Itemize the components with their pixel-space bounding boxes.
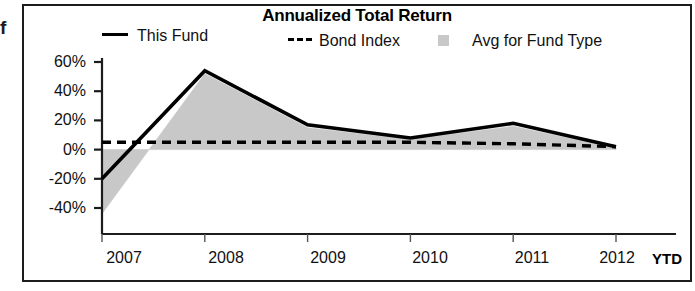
- x-tick-label: 2009: [298, 250, 358, 266]
- x-tick-label: 2008: [196, 250, 256, 266]
- y-tick-label: 60%: [30, 54, 86, 70]
- y-tick-label: 20%: [30, 112, 86, 128]
- x-tick-label: 2010: [400, 250, 460, 266]
- x-tick-label: 2012: [587, 250, 647, 266]
- x-tick-label: 2007: [94, 250, 154, 266]
- y-tick-label: -20%: [30, 171, 86, 187]
- clipped-edge-text: f: [0, 18, 18, 37]
- y-tick-label: 40%: [30, 83, 86, 99]
- chart-plot-svg: [24, 6, 690, 280]
- y-tick-label: -40%: [30, 200, 86, 216]
- x-axis-ytd-label: YTD: [652, 251, 682, 266]
- y-tick-label: 0%: [30, 142, 86, 158]
- chart-axes: [94, 58, 676, 242]
- x-tick-label: 2011: [502, 250, 562, 266]
- chart-container: Annualized Total Return This Fund Bond I…: [22, 4, 692, 282]
- plot-area: [24, 6, 690, 280]
